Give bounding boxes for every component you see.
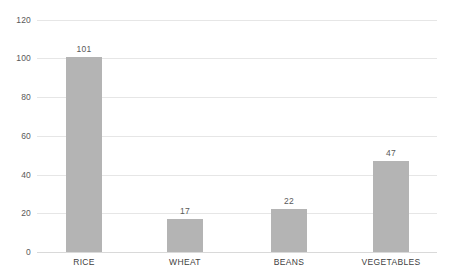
bar-rice[interactable] <box>66 57 102 252</box>
bar-value-rice: 101 <box>66 45 102 54</box>
category-label-beans: BEANS <box>251 258 327 267</box>
category-label-rice: RICE <box>46 258 122 267</box>
bar-value-beans: 22 <box>271 197 307 206</box>
bar-vegetables[interactable] <box>373 161 409 252</box>
bar-beans[interactable] <box>271 209 307 252</box>
bar-chart: 120 100 80 60 40 20 0 101 17 22 47 RICE … <box>0 0 450 279</box>
category-label-vegetables: VEGETABLES <box>353 258 429 267</box>
bar-value-vegetables: 47 <box>373 149 409 158</box>
bar-value-wheat: 17 <box>167 207 203 216</box>
category-label-wheat: WHEAT <box>147 258 223 267</box>
bars-group: 101 17 22 47 RICE WHEAT BEANS VEGETABLES <box>0 0 450 279</box>
bar-wheat[interactable] <box>167 219 203 252</box>
